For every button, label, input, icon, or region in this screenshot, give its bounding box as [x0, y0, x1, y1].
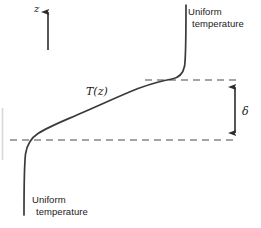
boundary-layer-thickness-label: δ	[242, 105, 249, 118]
temperature-curve-label: T(z)	[86, 85, 108, 98]
uniform-temperature-top-line2: temperature	[188, 18, 244, 30]
uniform-temperature-bottom-line1: Uniform	[32, 194, 66, 205]
z-axis-label: z	[34, 3, 39, 14]
uniform-temperature-top-label: Uniform temperature	[188, 6, 244, 30]
temperature-profile-figure: z T(z) δ Uniform temperature Uniform tem…	[0, 0, 261, 228]
uniform-temperature-bottom-label: Uniform temperature	[32, 194, 88, 218]
uniform-temperature-bottom-line2: temperature	[32, 206, 88, 218]
uniform-temperature-top-line1: Uniform	[188, 6, 222, 17]
